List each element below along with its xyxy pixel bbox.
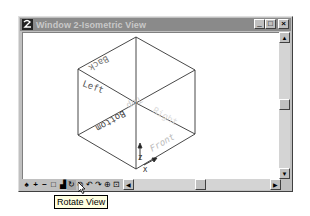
window-title: Window 2-Isometric View [36,20,146,30]
pan-icon: ♠ [24,180,28,189]
scroll-down-button[interactable]: ▼ [279,168,290,179]
scroll-right-button[interactable]: ▶ [270,179,281,190]
rotate-view-button[interactable]: ↻ [67,180,76,190]
maximize-button[interactable]: □ [265,19,276,29]
view-settings-button[interactable]: ⊡ [112,180,121,190]
redo-view-button[interactable]: ↷ [94,180,103,190]
axis-label-z: Z [138,154,142,162]
vertical-scroll-thumb[interactable] [279,99,290,110]
zoom-out-button[interactable]: − [40,180,49,190]
fit-view-button[interactable]: ▟ [58,180,67,190]
face-label-left: Left [81,78,105,95]
view-canvas[interactable]: Back Left Top Right Bottom Front Z X [22,32,279,179]
face-label-back: Back [86,54,110,74]
arrow-down-icon: ▼ [282,171,288,177]
view-control-bar: ♠ + − □ ▟ ↻ ⊘ ↶ ↷ ⊕ ⊡ ◀ ▶ [22,179,290,190]
face-label-bottom: Bottom [94,109,127,134]
pan-button[interactable]: ♠ [22,180,31,190]
arrow-up-icon: ▲ [282,35,288,41]
close-icon: × [281,20,286,28]
undo-view-button[interactable]: ↶ [85,180,94,190]
horizontal-scrollbar[interactable]: ◀ ▶ [123,179,281,190]
title-bar[interactable]: Window 2-Isometric View _ □ × [20,18,291,31]
close-button[interactable]: × [278,19,289,29]
maximize-icon: □ [268,20,273,28]
rotate-view-tooltip: Rotate View [54,195,108,209]
horizontal-scroll-thumb[interactable] [195,179,206,190]
rotate-view-icon: ↻ [68,180,75,189]
fit-view-icon: ▟ [60,180,66,189]
zoom-in-icon: + [33,180,38,189]
minimize-icon: _ [257,19,261,27]
isometric-cube-drawing: Back Left Top Right Bottom Front Z X [23,33,279,179]
axis-label-x: X [143,166,148,174]
zoom-out-icon: − [42,180,47,189]
view-options-button[interactable]: ⊕ [103,180,112,190]
arrow-right-icon: ▶ [273,181,278,188]
vertical-scrollbar[interactable]: ▲ ▼ [279,32,290,179]
scroll-left-button[interactable]: ◀ [123,179,134,190]
undo-view-icon: ↶ [86,180,93,189]
isometric-view-window: Window 2-Isometric View _ □ × [18,16,293,192]
redo-view-icon: ↷ [95,180,102,189]
arrow-left-icon: ◀ [126,181,131,188]
window-area-button[interactable]: □ [49,180,58,190]
window-area-icon: □ [51,180,56,189]
minimize-button[interactable]: _ [254,19,265,29]
view-options-icon: ⊕ [104,180,111,189]
face-label-right: Right [151,105,179,127]
app-logo-icon[interactable] [22,19,33,30]
view-settings-icon: ⊡ [113,180,120,189]
scroll-up-button[interactable]: ▲ [279,32,290,43]
face-label-front: Front [148,132,176,154]
zoom-in-button[interactable]: + [31,180,40,190]
face-label-top: Top [125,94,144,111]
